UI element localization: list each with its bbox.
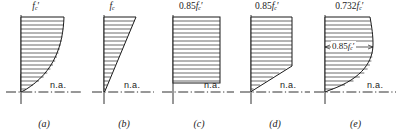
stress-diagram-panel-d: 0.85fc′ — [238, 0, 312, 133]
stress-diagram-panel-a: fc′ — [0, 0, 88, 133]
stress-diagram-panel-c: 0.85fc′ — [160, 0, 238, 133]
panel-d-drawing — [238, 0, 312, 133]
panel-d-na-label: n.a. — [280, 80, 296, 90]
panel-e-drawing — [312, 0, 399, 133]
panel-b-na-label: n.a. — [124, 80, 140, 90]
panel-e-mid-label: 0.85fc′ — [331, 41, 356, 51]
panel-e-mid-prime: ′ — [353, 41, 355, 51]
stress-diagram-panel-b: fc — [88, 0, 160, 133]
panel-c-drawing — [160, 0, 238, 133]
panel-d-caption: (d) — [238, 118, 312, 129]
panel-a-caption: (a) — [0, 118, 88, 129]
panel-b-caption: (b) — [88, 118, 160, 129]
stress-distribution-figure: fc′ — [0, 0, 399, 133]
panel-e-na-label: n.a. — [367, 80, 383, 90]
panel-c-caption: (c) — [160, 118, 238, 129]
panel-e-mid-coeff: 0.85 — [332, 41, 348, 51]
stress-diagram-panel-e: 0.732fc′ — [312, 0, 399, 133]
panel-a-drawing — [0, 0, 88, 133]
panel-c-na-label: n.a. — [204, 80, 220, 90]
panel-e-caption: (e) — [312, 118, 399, 129]
panel-b-drawing — [88, 0, 160, 133]
panel-a-na-label: n.a. — [50, 80, 66, 90]
